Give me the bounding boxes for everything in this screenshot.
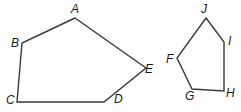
vertex-label-g: G [185,89,194,103]
vertex-label-i: I [228,34,232,48]
vertex-label-f: F [166,52,174,66]
vertex-label-c: C [6,93,15,107]
vertex-label-b: B [11,36,19,50]
diagram-canvas: A B C D E J I H G F [0,0,241,112]
vertex-label-e: E [145,62,154,76]
figure-pentagon-fghij: J I H G F [166,2,235,103]
vertex-label-j: J [200,2,208,16]
figure-pentagon-abcde: A B C D E [6,2,154,107]
vertex-label-a: A [70,2,79,16]
vertex-label-h: H [226,86,235,100]
vertex-label-d: D [114,92,123,106]
pentagon-abcde-outline [17,18,146,102]
pentagon-fghij-outline [177,18,224,91]
